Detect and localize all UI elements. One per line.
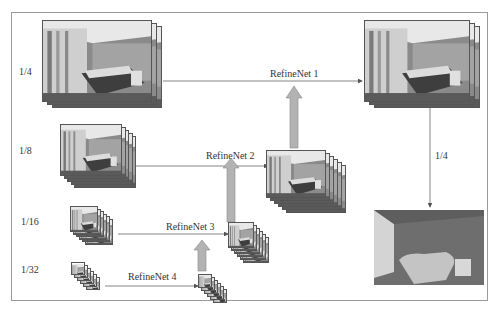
feature-map-image: [364, 20, 470, 102]
feature-map-image: [70, 206, 98, 232]
depth-map-output: [374, 210, 484, 285]
up-arrow-3: [194, 240, 210, 271]
feature-map-image: [71, 262, 85, 275]
feature-map-image: [266, 150, 326, 198]
feature-map-image: [60, 124, 122, 176]
feature-map-image: [198, 274, 212, 288]
up-arrow-1: [286, 86, 302, 148]
feature-map-image: [42, 20, 152, 102]
up-arrow-2: [223, 158, 239, 222]
feature-map-image: [228, 222, 254, 248]
